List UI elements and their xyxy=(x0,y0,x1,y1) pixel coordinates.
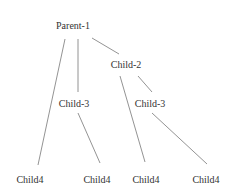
tree-diagram-svg: Parent-1Child-2Child-3Child-3Child4Child… xyxy=(0,0,227,184)
edge-n2-n5 xyxy=(78,113,100,163)
edge-n0-n1 xyxy=(92,38,119,54)
node-label: Child-3 xyxy=(59,98,90,109)
node-label: Child4 xyxy=(83,174,110,184)
node-label: Child4 xyxy=(192,174,219,184)
edge-n3-n7 xyxy=(152,113,207,164)
node-label: Child-3 xyxy=(135,98,166,109)
edge-n1-n6 xyxy=(120,76,145,162)
node-label: Child4 xyxy=(16,174,43,184)
tree-diagram: Parent-1Child-2Child-3Child-3Child4Child… xyxy=(0,0,227,184)
node-label: Child4 xyxy=(132,174,159,184)
node-label: Child-2 xyxy=(111,59,142,70)
edge-n1-n3 xyxy=(138,76,152,92)
node-label: Parent-1 xyxy=(56,20,90,31)
nodes-group: Parent-1Child-2Child-3Child-3Child4Child… xyxy=(16,20,219,184)
